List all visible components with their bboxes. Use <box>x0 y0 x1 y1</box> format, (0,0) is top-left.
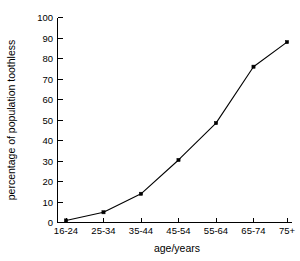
x-tick-label: 65-74 <box>241 225 265 236</box>
x-tick-label: 25-34 <box>91 225 115 236</box>
y-tick-label: 10 <box>42 197 53 208</box>
data-point-marker <box>252 65 255 68</box>
y-tick-label: 30 <box>42 156 53 167</box>
chart-figure: 100 90 80 70 60 50 40 30 20 10 0 16-24 2… <box>0 0 300 261</box>
y-axis-title: percentage of population toothless <box>5 40 17 201</box>
y-tick-label: 20 <box>42 176 53 187</box>
y-tick-label: 80 <box>42 53 53 64</box>
y-tick-label: 90 <box>42 33 53 44</box>
data-point-marker <box>64 219 67 222</box>
x-tick-label: 16-24 <box>54 225 78 236</box>
y-tick-label: 100 <box>37 12 53 23</box>
y-tick-label: 70 <box>42 74 53 85</box>
x-axis-title: age/years <box>154 242 200 254</box>
data-point-marker <box>177 158 180 161</box>
line-chart: 100 90 80 70 60 50 40 30 20 10 0 16-24 2… <box>0 0 300 261</box>
y-tick-label: 50 <box>42 115 53 126</box>
data-point-marker <box>285 41 288 44</box>
x-tick-label: 45-54 <box>166 225 190 236</box>
x-tick-label: 55-64 <box>204 225 228 236</box>
x-tick-label: 75+ <box>279 225 296 236</box>
data-point-marker <box>139 192 142 195</box>
y-tick-label: 60 <box>42 94 53 105</box>
data-point-marker <box>102 211 105 214</box>
y-tick-label: 0 <box>48 217 53 228</box>
x-tick-label: 35-44 <box>129 225 153 236</box>
y-tick-label: 40 <box>42 135 53 146</box>
data-point-marker <box>214 121 217 124</box>
